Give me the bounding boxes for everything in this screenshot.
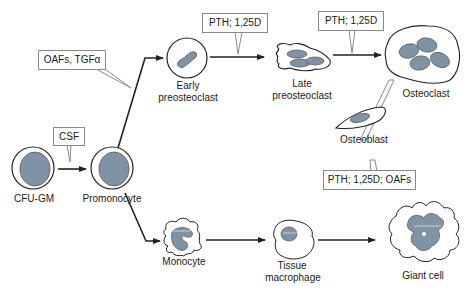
label-tissue-macrophage-line1: Tissue	[264, 260, 320, 272]
cell-promonocyte	[91, 147, 133, 189]
callout-pointer-oafs	[96, 69, 131, 88]
cell-late-preosteoclast	[276, 44, 330, 71]
cell-giant-cell	[389, 202, 459, 262]
factor-box-pth-125d-1: PTH; 1,25D	[202, 13, 268, 33]
osteoclast-differentiation-diagram: OAFs, TGFα CSF PTH; 1,25D PTH; 1,25D PTH…	[0, 0, 465, 293]
label-osteoclast: Osteoclast	[398, 88, 454, 100]
factor-box-oafs-tgfa: OAFs, TGFα	[38, 50, 106, 70]
label-tissue-macrophage-line2: macrophage	[260, 272, 326, 284]
cell-tissue-macrophage	[274, 220, 314, 259]
factor-box-pth-125d-2: PTH; 1,25D	[318, 11, 384, 31]
cell-monocyte	[164, 218, 202, 256]
label-late-preosteoclast-line2: preosteoclast	[269, 90, 335, 102]
callout-pointer-pth2	[349, 30, 355, 53]
label-giant-cell: Giant cell	[393, 270, 453, 282]
diagram-graphics	[0, 0, 465, 293]
label-monocyte: Monocyte	[156, 256, 212, 268]
label-promonocyte: Promonocyte	[80, 193, 144, 205]
label-late-preosteoclast-line1: Late	[272, 78, 332, 90]
label-osteoblast: Osteoblast	[336, 134, 392, 146]
label-cfu-gm: CFU-GM	[8, 193, 60, 205]
cell-osteoclast	[385, 26, 459, 83]
factor-box-pth-125d-oafs: PTH; 1,25D; OAFs	[323, 170, 416, 190]
cell-early-preosteoclast	[167, 38, 207, 78]
callout-pointer-csf	[67, 145, 71, 162]
label-early-preosteoclast-line2: preosteoclast	[155, 92, 221, 104]
cell-osteoblast	[336, 107, 385, 129]
cell-cfu-gm	[12, 147, 54, 189]
label-early-preosteoclast-line1: Early	[160, 80, 216, 92]
factor-box-csf: CSF	[53, 127, 85, 146]
callout-pointer-pth1	[235, 32, 242, 54]
